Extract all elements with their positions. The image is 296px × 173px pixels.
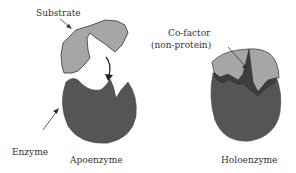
- substrate-label: Substrate: [36, 8, 81, 18]
- binding-arrow: [106, 57, 110, 76]
- enzyme-pointer-arrowhead-icon: [53, 108, 59, 114]
- apoenzyme-label: Apoenzyme: [70, 155, 123, 165]
- enzyme-label: Enzyme: [12, 147, 48, 157]
- enzyme-pointer-line: [43, 111, 57, 130]
- apoenzyme-shape: [62, 78, 136, 143]
- cofactor-label-line2: (non-protein): [151, 40, 211, 50]
- holoenzyme-label: Holoenzyme: [221, 155, 277, 165]
- binding-arrowhead-icon: [105, 74, 113, 81]
- cofactor-label-line1: Co-factor: [168, 28, 210, 38]
